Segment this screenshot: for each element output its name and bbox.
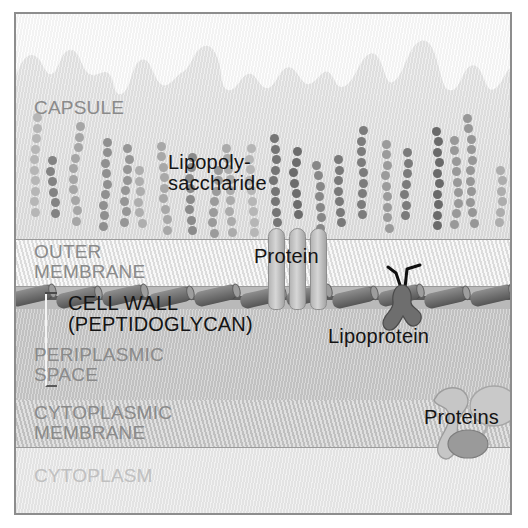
lipopolysaccharide-chain bbox=[70, 110, 84, 226]
lipopolysaccharide-bead bbox=[336, 208, 345, 217]
lipopolysaccharide-bead bbox=[157, 142, 166, 151]
lipopolysaccharide-bead bbox=[434, 137, 443, 146]
lipopolysaccharide-chain bbox=[95, 126, 109, 231]
lipopolysaccharide-bead bbox=[468, 208, 477, 217]
lipopolysaccharide-bead bbox=[467, 135, 476, 144]
lipopolysaccharide-bead bbox=[73, 206, 82, 215]
label-capsule: CAPSULE bbox=[34, 98, 124, 118]
lipopolysaccharide-bead bbox=[100, 211, 109, 220]
lipopolysaccharide-bead bbox=[466, 177, 475, 186]
lipopolysaccharide-bead bbox=[358, 189, 367, 198]
lipopolysaccharide-bead bbox=[452, 157, 461, 166]
lipopolysaccharide-chain bbox=[30, 101, 44, 217]
lipopolysaccharide-bead bbox=[435, 179, 444, 188]
lipopolysaccharide-bead bbox=[271, 187, 280, 196]
cell-envelope-figure: CAPSULE OUTER MEMBRANE CELL WALL (PEPTID… bbox=[0, 0, 528, 528]
lipopolysaccharide-chain bbox=[445, 124, 459, 229]
lipopolysaccharide-bead bbox=[72, 217, 81, 226]
lipopolysaccharide-bead bbox=[433, 169, 442, 178]
lipopolysaccharide-bead bbox=[135, 208, 144, 217]
lipopolysaccharide-bead bbox=[271, 197, 280, 206]
lipopolysaccharide-bead bbox=[497, 187, 506, 196]
label-outer-membrane: OUTER MEMBRANE bbox=[34, 242, 145, 282]
lipopolysaccharide-bead bbox=[101, 159, 110, 168]
lipopolysaccharide-bead bbox=[314, 171, 323, 180]
lipopolysaccharide-bead bbox=[209, 208, 218, 217]
lipopolysaccharide-bead bbox=[452, 167, 461, 176]
lipopolysaccharide-bead bbox=[228, 228, 237, 237]
lipopolysaccharide-bead bbox=[383, 203, 392, 212]
lipopolysaccharide-bead bbox=[51, 198, 60, 207]
lipopolysaccharide-bead bbox=[357, 200, 366, 209]
porin-subunit bbox=[310, 228, 327, 310]
lipopolysaccharide-bead bbox=[99, 201, 108, 210]
lipopolysaccharide-bead bbox=[159, 163, 168, 172]
lipopolysaccharide-bead bbox=[186, 195, 195, 204]
lipopolysaccharide-bead bbox=[334, 187, 343, 196]
lipopolysaccharide-bead bbox=[271, 145, 280, 154]
lipopolysaccharide-bead bbox=[432, 127, 441, 136]
lipopolysaccharide-bead bbox=[273, 218, 282, 227]
lipopolysaccharide-bead bbox=[249, 207, 258, 216]
lipopolysaccharide-bead bbox=[185, 205, 194, 214]
lipopolysaccharide-bead bbox=[48, 177, 57, 186]
lipopolysaccharide-bead bbox=[402, 180, 411, 189]
lipopolysaccharide-bead bbox=[385, 224, 394, 233]
lipopolysaccharide-bead bbox=[134, 198, 143, 207]
lipopolysaccharide-bead bbox=[101, 190, 110, 199]
lipopolysaccharide-bead bbox=[381, 171, 390, 180]
lipopolysaccharide-bead bbox=[46, 167, 55, 176]
lipopolysaccharide-bead bbox=[402, 201, 411, 210]
label-lipopolysaccharide: Lipopoly- saccharide bbox=[168, 152, 267, 194]
lipopolysaccharide-bead bbox=[450, 220, 459, 229]
lipopolysaccharide-bead bbox=[102, 169, 111, 178]
lipopolysaccharide-bead bbox=[454, 199, 463, 208]
lipopolysaccharide-bead bbox=[30, 166, 39, 175]
lipopolysaccharide-bead bbox=[383, 213, 392, 222]
lipopolysaccharide-bead bbox=[210, 197, 219, 206]
lipopolysaccharide-bead bbox=[31, 187, 40, 196]
lipopolysaccharide-bead bbox=[125, 155, 134, 164]
lipopolysaccharide-bead bbox=[76, 122, 85, 131]
lipopolysaccharide-bead bbox=[312, 161, 321, 170]
lipopolysaccharide-bead bbox=[163, 226, 172, 235]
lipopolysaccharide-bead bbox=[315, 192, 324, 201]
lipopolysaccharide-bead bbox=[470, 219, 479, 228]
porin-subunit bbox=[289, 228, 306, 310]
lipopolysaccharide-bead bbox=[30, 155, 39, 164]
porin-subunit bbox=[268, 228, 285, 310]
lipopolysaccharide-bead bbox=[435, 158, 444, 167]
lipopolysaccharide-bead bbox=[496, 208, 505, 217]
lipopolysaccharide-bead bbox=[433, 221, 442, 230]
lipopolysaccharide-bead bbox=[498, 176, 507, 185]
lipopolysaccharide-bead bbox=[466, 198, 475, 207]
lipopolysaccharide-bead bbox=[467, 187, 476, 196]
lipopolysaccharide-bead bbox=[382, 150, 391, 159]
lipopolysaccharide-bead bbox=[335, 197, 344, 206]
lipopolysaccharide-bead bbox=[103, 138, 112, 147]
lipopolysaccharide-chain bbox=[47, 146, 61, 218]
lipopolysaccharide-bead bbox=[103, 180, 112, 189]
lipopolysaccharide-bead bbox=[359, 126, 368, 135]
lipopolysaccharide-bead bbox=[357, 137, 366, 146]
lipopolysaccharide-bead bbox=[69, 175, 78, 184]
lipopolysaccharide-bead bbox=[138, 219, 147, 228]
lipopolysaccharide-bead bbox=[227, 217, 236, 226]
lipopolysaccharide-bead bbox=[454, 188, 463, 197]
lipopolysaccharide-bead bbox=[403, 148, 412, 157]
lipopolysaccharide-bead bbox=[292, 158, 301, 167]
lipopolysaccharide-bead bbox=[382, 140, 391, 149]
membrane-protein-embedded bbox=[448, 430, 488, 458]
lipopolysaccharide-bead bbox=[31, 208, 40, 217]
lipopolysaccharide-bead bbox=[433, 148, 442, 157]
diagram-plate: CAPSULE OUTER MEMBRANE CELL WALL (PEPTID… bbox=[14, 12, 512, 515]
lipopolysaccharide-bead bbox=[316, 203, 325, 212]
lipopolysaccharide-chain bbox=[489, 155, 503, 227]
lipopolysaccharide-bead bbox=[51, 209, 60, 218]
lipopolysaccharide-chain bbox=[269, 122, 283, 227]
lipopolysaccharide-bead bbox=[335, 166, 344, 175]
lipopolysaccharide-bead bbox=[452, 209, 461, 218]
lipopolysaccharide-bead bbox=[71, 154, 80, 163]
lipopolysaccharide-bead bbox=[31, 176, 40, 185]
lipopolysaccharide-chain bbox=[398, 137, 412, 220]
